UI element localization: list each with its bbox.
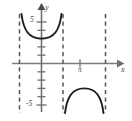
coordinate-plot — [0, 0, 132, 121]
y-tick-label-5: 5 — [30, 16, 34, 24]
x-axis-label: x — [121, 66, 125, 74]
y-tick-label-negative-5: -5 — [26, 100, 32, 108]
y-axis-label: y — [45, 4, 49, 12]
x-tick-label-pi: π — [78, 66, 82, 74]
curve-branch-lower — [65, 88, 104, 113]
graph-screenshot: y x 5 -5 π — [0, 0, 132, 121]
